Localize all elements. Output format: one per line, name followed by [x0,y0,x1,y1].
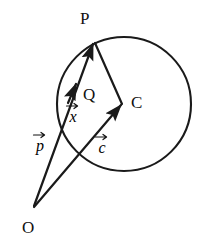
vector-p-shaft [34,44,93,206]
vector-label-c-glyph: c [95,139,109,157]
diagram-canvas [0,0,209,242]
point-label-C: C [131,94,142,111]
point-label-P: P [80,10,89,27]
vector-label-x-glyph: x [66,108,80,126]
vector-circle-diagram: P C Q O p c x [0,0,209,242]
vector-label-p: p [33,131,47,155]
point-label-O: O [22,219,34,236]
vector-label-x: x [66,102,80,126]
vector-label-c: c [95,133,109,157]
vector-label-p-glyph: p [33,137,47,155]
segment-P-C [95,43,122,104]
point-label-Q: Q [83,86,95,103]
